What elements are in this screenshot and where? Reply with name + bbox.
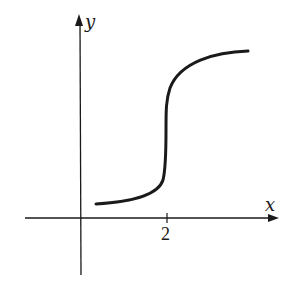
- y-axis-label: y: [84, 11, 96, 32]
- x-axis-arrow-icon: [268, 214, 279, 222]
- y-axis: [80, 22, 81, 275]
- graph-canvas: y x 2: [0, 0, 288, 283]
- y-axis-arrow-icon: [75, 14, 83, 26]
- function-curve: [96, 51, 248, 204]
- x-tick-label-2: 2: [161, 224, 170, 244]
- x-axis-label: x: [265, 194, 275, 215]
